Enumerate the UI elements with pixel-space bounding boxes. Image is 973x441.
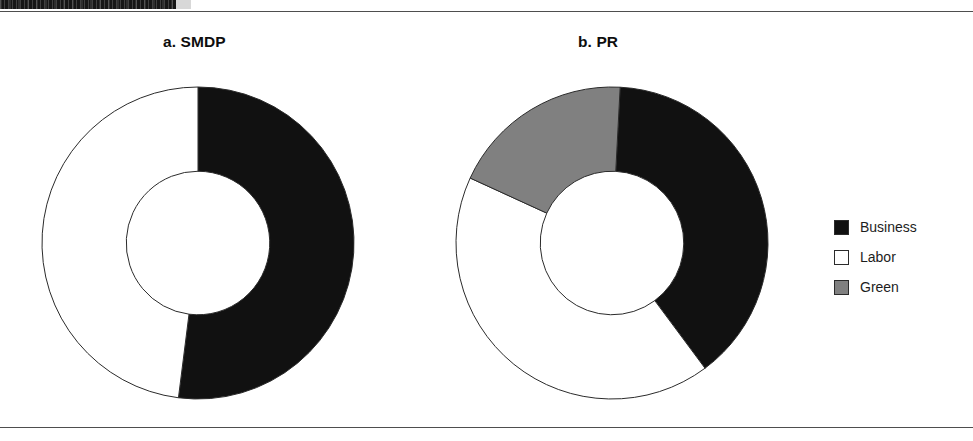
chart-legend: Business Labor Green <box>834 212 964 302</box>
legend-label-business: Business <box>860 219 917 235</box>
donut-chart-pr-svg <box>455 86 769 400</box>
legend-swatch-business-icon <box>834 220 849 235</box>
cropped-header-band-tail <box>176 0 191 9</box>
legend-item-labor: Labor <box>834 242 964 272</box>
legend-swatch-labor-icon <box>834 250 849 265</box>
donut-slice-labor <box>42 87 198 398</box>
legend-item-green: Green <box>834 272 964 302</box>
legend-swatch-green-icon <box>834 280 849 295</box>
legend-item-business: Business <box>834 212 964 242</box>
donut-chart-smdp <box>41 86 355 400</box>
panel-title-a: a. SMDP <box>163 33 226 51</box>
panel-title-b: b. PR <box>578 33 618 51</box>
cropped-header-band <box>0 0 176 9</box>
donut-chart-pr <box>455 86 769 400</box>
top-divider-rule <box>0 11 973 12</box>
bottom-divider-rule <box>0 427 973 428</box>
donut-slice-business <box>178 87 354 399</box>
figure-container: a. SMDP b. PR Business Labor Green <box>0 0 973 441</box>
legend-label-labor: Labor <box>860 249 896 265</box>
legend-label-green: Green <box>860 279 899 295</box>
donut-chart-smdp-svg <box>41 86 355 400</box>
